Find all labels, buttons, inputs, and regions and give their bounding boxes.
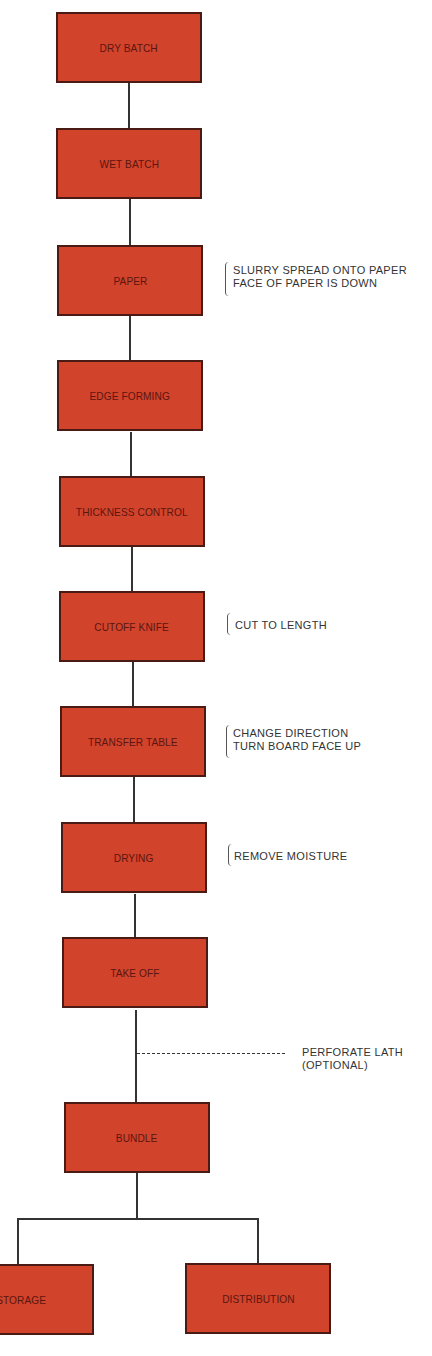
- connector-edge-thickness: [130, 432, 132, 477]
- connector-to-distribution: [257, 1218, 259, 1264]
- connector-dry-wet: [128, 83, 130, 129]
- step-wet-batch: WET BATCH: [56, 128, 202, 199]
- brace-icon: [225, 262, 230, 296]
- step-transfer-table: TRANSFER TABLE: [60, 706, 206, 777]
- optional-branch-note: PERFORATE LATH (OPTIONAL): [302, 1046, 403, 1072]
- step-dry-batch: DRY BATCH: [56, 12, 202, 83]
- step-paper: PAPER: [57, 245, 203, 316]
- step-take-off: TAKE OFF: [62, 937, 208, 1008]
- connector-wet-paper: [129, 199, 131, 246]
- optional-branch-dashed-line: [137, 1053, 285, 1054]
- connector-takeoff-bundle: [135, 1010, 137, 1103]
- step-storage: STORAGE: [0, 1264, 94, 1335]
- step-distribution: DISTRIBUTION: [185, 1263, 331, 1334]
- note-transfer-table: CHANGE DIRECTION TURN BOARD FACE UP: [233, 727, 361, 753]
- brace-icon: [227, 613, 232, 635]
- step-thickness-control: THICKNESS CONTROL: [59, 476, 205, 547]
- connector-cutoff-transfer: [132, 662, 134, 707]
- brace-icon: [228, 844, 233, 866]
- connector-bundle-split: [136, 1173, 138, 1219]
- connector-paper-edge: [129, 316, 131, 361]
- step-bundle: BUNDLE: [64, 1102, 210, 1173]
- connector-split-horizontal: [17, 1218, 258, 1220]
- step-edge-forming: EDGE FORMING: [57, 360, 203, 431]
- note-drying: REMOVE MOISTURE: [234, 850, 347, 863]
- note-cutoff-knife: CUT TO LENGTH: [235, 619, 327, 632]
- connector-drying-takeoff: [134, 894, 136, 938]
- step-drying: DRYING: [61, 822, 207, 893]
- note-paper: SLURRY SPREAD ONTO PAPER FACE OF PAPER I…: [233, 264, 407, 290]
- connector-transfer-drying: [133, 777, 135, 823]
- connector-to-storage: [17, 1218, 19, 1264]
- connector-thickness-cutoff: [131, 547, 133, 592]
- step-cutoff-knife: CUTOFF KNIFE: [59, 591, 205, 662]
- brace-icon: [226, 725, 231, 758]
